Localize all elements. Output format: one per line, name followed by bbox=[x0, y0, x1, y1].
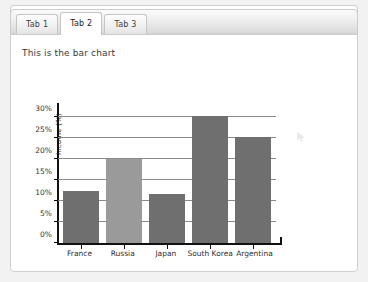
y-tick-label-30: 30% bbox=[35, 104, 52, 113]
cursor-icon bbox=[297, 127, 305, 137]
y-tick-label-10: 10% bbox=[35, 188, 52, 197]
x-axis-label-russia: Russia bbox=[101, 249, 144, 258]
x-axis-labels: FranceRussiaJapanSouth KoreaArgentina bbox=[58, 249, 276, 258]
y-tick-label-20: 20% bbox=[35, 146, 52, 155]
page-heading: This is the bar chart bbox=[22, 48, 115, 58]
plot-area: 0%5%10%15%20%25%30% bbox=[58, 111, 276, 243]
y-tick-mark-20 bbox=[54, 158, 58, 159]
x-axis-line bbox=[57, 243, 282, 245]
bar-slot-russia bbox=[103, 111, 146, 243]
bar-slot-japan bbox=[146, 111, 189, 243]
y-tick-label-15: 15% bbox=[35, 167, 52, 176]
y-tick-mark-0 bbox=[54, 242, 58, 243]
x-axis-label-japan: Japan bbox=[144, 249, 187, 258]
tab-1[interactable]: Tab 1 bbox=[16, 14, 58, 34]
bar-argentina[interactable] bbox=[235, 137, 271, 243]
screenshot-root: Tab 1 Tab 2 Tab 3 This is the bar chart … bbox=[0, 0, 368, 282]
y-tick-label-25: 25% bbox=[35, 125, 52, 134]
y-tick-mark-5 bbox=[54, 221, 58, 222]
bar-russia[interactable] bbox=[106, 159, 142, 243]
y-tick-mark-15 bbox=[54, 179, 58, 180]
bar-japan[interactable] bbox=[149, 194, 185, 243]
bar-france[interactable] bbox=[63, 191, 99, 243]
y-tick-mark-10 bbox=[54, 200, 58, 201]
y-tick-label-0: 0% bbox=[40, 230, 52, 239]
tab-2[interactable]: Tab 2 bbox=[60, 12, 102, 35]
bar-slot-argentina bbox=[231, 111, 274, 243]
y-tick-mark-25 bbox=[54, 137, 58, 138]
x-axis-label-argentina: Argentina bbox=[233, 249, 276, 258]
x-axis-label-france: France bbox=[58, 249, 101, 258]
bar-slot-south-korea bbox=[188, 111, 231, 243]
x-axis-label-south-korea: South Korea bbox=[187, 249, 232, 258]
tab-3[interactable]: Tab 3 bbox=[104, 14, 146, 34]
bar-south-korea[interactable] bbox=[192, 116, 228, 243]
x-axis-end-cap bbox=[280, 237, 282, 245]
bar-chart: Income (%) 0%5%10%15%20%25%30% FranceRus… bbox=[22, 100, 284, 262]
y-tick-mark-30 bbox=[54, 116, 58, 117]
y-axis-line bbox=[57, 103, 59, 244]
y-tick-label-5: 5% bbox=[40, 209, 52, 218]
bar-slot-france bbox=[60, 111, 103, 243]
bar-series bbox=[60, 111, 274, 243]
tab-bar: Tab 1 Tab 2 Tab 3 bbox=[10, 9, 358, 35]
